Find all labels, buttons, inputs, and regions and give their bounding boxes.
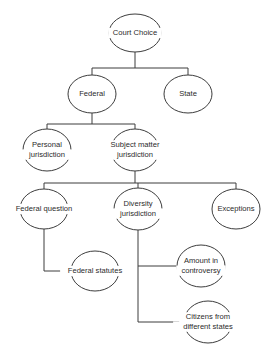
node-label-exceptions: Exceptions: [217, 204, 254, 213]
node-federal-question[interactable]: Federal question: [9, 189, 79, 229]
node-exceptions[interactable]: Exceptions: [212, 189, 260, 229]
node-label-subject-matter-jurisdiction: Subject matter: [111, 140, 160, 149]
node-personal-jurisdiction[interactable]: Personaljurisdiction: [20, 129, 74, 171]
node-federal[interactable]: Federal: [68, 75, 116, 113]
node-label-diversity-jurisdiction: jurisdiction: [119, 209, 156, 218]
node-state[interactable]: State: [164, 75, 212, 113]
node-court-choice[interactable]: Court Choice: [108, 14, 162, 52]
tree-diagram-canvas: Court ChoiceFederalStatePersonaljurisdic…: [0, 0, 270, 361]
node-federal-statutes[interactable]: Federal statutes: [60, 251, 130, 291]
node-label-personal-jurisdiction: Personal: [32, 140, 62, 149]
node-diversity-jurisdiction[interactable]: Diversityjurisdiction: [111, 188, 165, 230]
node-label-citizens-different-states: Citizens from: [186, 312, 230, 321]
node-label-federal-statutes: Federal statutes: [68, 266, 123, 275]
edge-diversity-amount: [138, 230, 178, 266]
edge-court-choice-federal: [92, 52, 188, 75]
edges-layer: [44, 52, 236, 322]
node-label-federal: Federal: [79, 89, 105, 98]
node-label-amount-in-controversy: controversy: [181, 266, 220, 275]
node-subject-matter-jurisdiction[interactable]: Subject matterjurisdiction: [104, 129, 166, 171]
edge-federal-question-federal-statutes: [44, 229, 72, 271]
node-label-subject-matter-jurisdiction: jurisdiction: [116, 150, 153, 159]
edge-federal-personal: [47, 113, 135, 129]
node-label-amount-in-controversy: Amount in: [184, 256, 218, 265]
node-label-federal-question: Federal question: [16, 204, 73, 213]
node-label-diversity-jurisdiction: Diversity: [123, 199, 152, 208]
node-amount-in-controversy[interactable]: Amount incontroversy: [176, 245, 226, 287]
node-label-citizens-different-states: different states: [183, 322, 233, 331]
edge-subject-matter-federal-question: [44, 171, 236, 189]
court-choice-diagram: Court ChoiceFederalStatePersonaljurisdic…: [0, 0, 270, 361]
node-citizens-different-states[interactable]: Citizens fromdifferent states: [173, 301, 243, 343]
node-label-state: State: [179, 89, 197, 98]
node-label-personal-jurisdiction: jurisdiction: [28, 150, 65, 159]
node-label-court-choice: Court Choice: [113, 28, 157, 37]
